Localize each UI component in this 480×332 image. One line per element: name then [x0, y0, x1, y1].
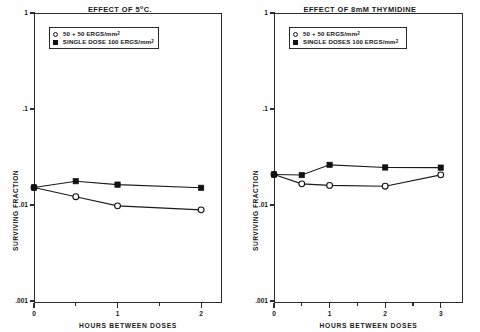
y-axis-tick-label: .01 — [238, 201, 268, 208]
y-axis-tick — [30, 12, 35, 13]
y-axis-tick-label: .1 — [238, 105, 268, 112]
data-series-left — [0, 0, 240, 332]
y-axis-tick — [270, 108, 275, 109]
x-axis-tick-label: 0 — [264, 310, 284, 317]
x-axis-tick — [201, 303, 202, 308]
y-axis-tick — [270, 300, 275, 301]
y-axis-tick-label: 1 — [238, 9, 268, 16]
y-axis-tick-label: .001 — [238, 297, 268, 304]
x-axis-tick-label: 1 — [108, 310, 128, 317]
x-axis-tick — [273, 303, 274, 308]
chart-panel-left: EFFECT OF 5oC. 50 + 50 ERGS/mm2 SINGLE D… — [0, 0, 240, 332]
x-axis-minor-tick — [412, 303, 413, 306]
x-axis-tick-label: 3 — [431, 310, 451, 317]
x-axis-tick — [33, 303, 34, 308]
x-axis-tick-label: 2 — [375, 310, 395, 317]
x-axis-tick — [329, 303, 330, 308]
y-axis-tick — [30, 108, 35, 109]
x-axis-tick — [440, 303, 441, 308]
figure-root: EFFECT OF 5oC. 50 + 50 ERGS/mm2 SINGLE D… — [0, 0, 480, 332]
x-axis-minor-tick — [75, 303, 76, 306]
y-axis-tick-label: 1 — [0, 9, 28, 16]
x-axis-minor-tick — [357, 303, 358, 306]
x-axis-minor-tick — [301, 303, 302, 306]
y-axis-tick — [270, 204, 275, 205]
chart-panel-right: EFFECT OF 8mM THYMIDINE 50 + 50 ERGS/mm2… — [240, 0, 480, 332]
y-axis-tick-label: .1 — [0, 105, 28, 112]
x-axis-tick-label: 2 — [191, 310, 211, 317]
x-axis-minor-tick — [159, 303, 160, 306]
y-axis-tick-label: .01 — [0, 201, 28, 208]
x-axis-tick — [385, 303, 386, 308]
x-axis-tick-label: 0 — [24, 310, 44, 317]
y-axis-tick — [270, 12, 275, 13]
data-series-right — [240, 0, 480, 332]
y-axis-tick — [30, 300, 35, 301]
x-axis-tick-label: 1 — [320, 310, 340, 317]
x-axis-tick — [117, 303, 118, 308]
y-axis-tick-label: .001 — [0, 297, 28, 304]
y-axis-tick — [30, 204, 35, 205]
